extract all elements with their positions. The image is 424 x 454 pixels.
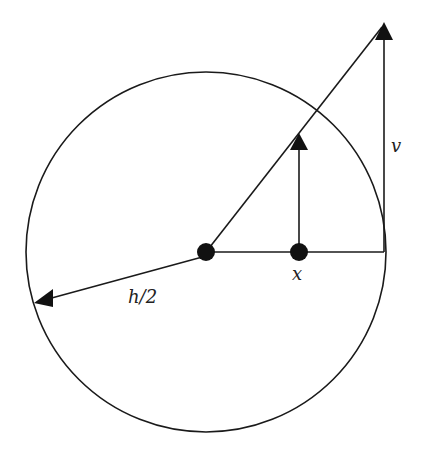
diagonal-line [206, 27, 382, 252]
label-x: x [292, 263, 302, 284]
position-arrow [290, 133, 308, 252]
x-point [290, 243, 308, 261]
center-point [197, 243, 215, 261]
arrowhead-icon [375, 22, 393, 40]
radius-arrow [34, 256, 206, 307]
label-h-half: h/2 [128, 286, 157, 307]
label-v: v [391, 135, 401, 156]
circle-diagram: v x h/2 [0, 0, 424, 454]
arrowhead-icon [34, 289, 53, 307]
